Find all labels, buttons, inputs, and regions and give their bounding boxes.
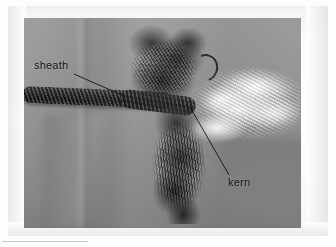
annotation-label-kern: kern — [228, 176, 250, 188]
mat-shadow-right — [306, 6, 328, 234]
scan-artifact-rule — [2, 241, 88, 242]
photo-vignette — [24, 18, 301, 228]
annotation-label-sheath: sheath — [34, 59, 68, 71]
rope-photograph — [24, 18, 301, 228]
page-root: sheath kern — [0, 0, 336, 247]
